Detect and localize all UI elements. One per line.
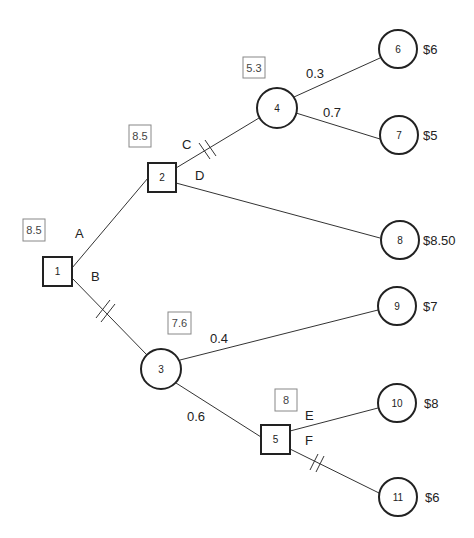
terminal-node-8: 8 bbox=[381, 221, 419, 259]
svg-text:8.5: 8.5 bbox=[26, 224, 41, 236]
svg-text:6: 6 bbox=[395, 44, 401, 55]
edge-E bbox=[290, 408, 378, 431]
edge-label-C: C bbox=[182, 137, 191, 152]
decision-node-2: 2 bbox=[148, 163, 176, 192]
chance-node-4: 4 bbox=[257, 88, 297, 128]
svg-text:5: 5 bbox=[273, 434, 279, 445]
edge-B bbox=[72, 278, 147, 355]
edge-label-F: F bbox=[305, 433, 313, 448]
svg-text:8: 8 bbox=[283, 394, 289, 406]
payoff-node9: $7 bbox=[423, 299, 437, 314]
decision-tree-diagram: 8.5 8.5 5.3 7.6 8 1 2 5 4 3 6 bbox=[0, 0, 474, 538]
svg-text:2: 2 bbox=[159, 172, 165, 183]
edge-A bbox=[72, 178, 148, 268]
svg-text:7: 7 bbox=[396, 130, 402, 141]
edge-label-0-7: 0.7 bbox=[323, 105, 341, 120]
svg-text:8: 8 bbox=[397, 235, 403, 246]
svg-text:5.3: 5.3 bbox=[246, 62, 261, 74]
value-box-node4: 5.3 bbox=[243, 57, 265, 78]
value-box-node1: 8.5 bbox=[23, 219, 45, 241]
svg-text:11: 11 bbox=[393, 492, 404, 503]
edge-label-A: A bbox=[75, 226, 84, 241]
terminal-node-6: 6 bbox=[379, 30, 417, 68]
terminal-node-9: 9 bbox=[378, 287, 416, 325]
edge-label-D: D bbox=[195, 168, 204, 183]
edge-label-B: B bbox=[91, 269, 100, 284]
edge-label-0-4: 0.4 bbox=[210, 331, 228, 346]
prune-mark-F bbox=[310, 454, 324, 472]
svg-text:1: 1 bbox=[55, 266, 61, 277]
svg-text:9: 9 bbox=[394, 301, 400, 312]
value-box-node5: 8 bbox=[275, 389, 297, 411]
decision-node-5: 5 bbox=[261, 425, 290, 454]
payoff-node8: $8.50 bbox=[423, 233, 456, 248]
terminal-node-11: 11 bbox=[379, 478, 417, 516]
chance-node-3: 3 bbox=[141, 349, 181, 389]
terminal-node-10: 10 bbox=[378, 384, 416, 422]
edge-F bbox=[290, 449, 379, 493]
terminal-node-7: 7 bbox=[380, 116, 418, 154]
payoff-node11: $6 bbox=[425, 490, 439, 505]
svg-text:7.6: 7.6 bbox=[172, 317, 187, 329]
svg-text:10: 10 bbox=[391, 398, 403, 409]
value-box-node2: 8.5 bbox=[129, 125, 151, 147]
edge-D bbox=[176, 183, 380, 238]
edge-label-0-3: 0.3 bbox=[306, 66, 324, 81]
payoff-node10: $8 bbox=[424, 396, 438, 411]
svg-text:3: 3 bbox=[158, 364, 164, 375]
payoff-node7: $5 bbox=[423, 128, 437, 143]
payoff-node6: $6 bbox=[423, 42, 437, 57]
edge-label-E: E bbox=[305, 408, 314, 423]
value-box-node3: 7.6 bbox=[168, 312, 191, 334]
svg-text:4: 4 bbox=[274, 103, 280, 114]
svg-text:8.5: 8.5 bbox=[132, 130, 147, 142]
edge-label-0-6: 0.6 bbox=[187, 409, 205, 424]
decision-node-1: 1 bbox=[43, 257, 72, 286]
